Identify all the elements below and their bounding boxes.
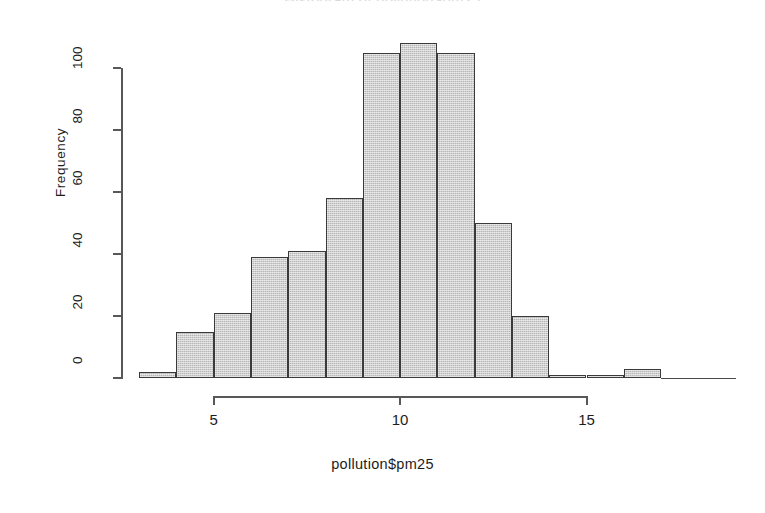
histogram-bar	[251, 257, 288, 378]
histogram-bar	[400, 43, 437, 378]
histogram-bar	[363, 53, 400, 379]
x-tick-15	[586, 396, 588, 405]
histogram-bar	[698, 378, 735, 379]
histogram-bar	[549, 375, 586, 378]
histogram-bar	[475, 223, 512, 378]
histogram-bar	[587, 375, 624, 378]
histogram-bar	[288, 251, 325, 378]
histogram-bar	[176, 332, 213, 379]
x-tick-5	[213, 396, 215, 405]
histogram-bar	[326, 198, 363, 378]
x-tick-10	[399, 396, 401, 405]
histogram-bar	[437, 53, 474, 379]
x-tick-label-15: 15	[578, 411, 595, 428]
histogram-bar	[624, 369, 661, 378]
histogram-bar	[661, 378, 698, 379]
histogram-bar	[512, 316, 549, 378]
histogram-bar	[139, 372, 176, 378]
histogram-bar	[214, 313, 251, 378]
x-tick-label-10: 10	[392, 411, 409, 428]
histogram-bars	[0, 0, 765, 513]
x-tick-label-5: 5	[210, 411, 218, 428]
x-axis-title: pollution$pm25	[0, 456, 765, 472]
histogram-plot: Histogram of pollution$pm25 020406080100…	[0, 0, 765, 513]
